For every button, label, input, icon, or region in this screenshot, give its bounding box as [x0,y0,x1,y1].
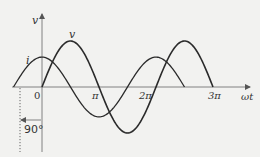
x-axis-label: ωt [241,91,254,102]
tick-label-pi: π [91,90,99,101]
current-curve-label: i [26,54,30,67]
phase-angle-label: 90° [24,123,44,136]
tick-label-2pi: 2π [138,90,152,101]
y-axis-label: v [32,14,39,27]
voltage-curve-label: v [69,28,76,41]
origin-label: 0 [34,90,40,101]
waveform-diagram: v v i 0 π 2π 3π ωt 90° [0,0,260,157]
tick-label-3pi: 3π [208,90,221,101]
